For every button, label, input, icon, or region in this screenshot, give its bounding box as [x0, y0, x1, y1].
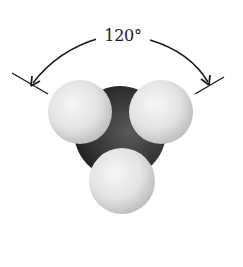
molecule-diagram: 120°: [0, 0, 243, 267]
outer-atom-left: [48, 80, 112, 144]
angle-label: 120°: [96, 26, 150, 46]
outer-atom-right: [129, 80, 193, 144]
arrowhead-right-icon: [201, 75, 210, 85]
angle-arc-right: [150, 40, 208, 82]
angle-arc-left: [33, 38, 100, 83]
tick-left: [12, 73, 48, 94]
outer-atom-bottom: [89, 148, 155, 214]
